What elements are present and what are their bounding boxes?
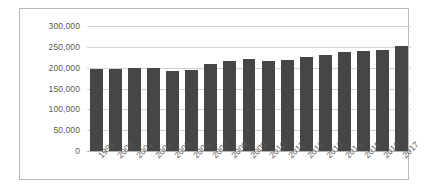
bar-slot bbox=[182, 26, 201, 151]
y-axis-tick-label: 200,000 bbox=[22, 63, 80, 73]
bar-slot bbox=[278, 26, 297, 151]
bar-slot bbox=[239, 26, 258, 151]
x-axis-tick-label-2007: 2007 bbox=[210, 153, 217, 160]
bar-slot bbox=[220, 26, 239, 151]
bar-slot bbox=[125, 26, 144, 151]
y-axis-tick-label: 250,000 bbox=[22, 42, 80, 52]
x-axis-tick-label-2010: 2010 bbox=[267, 153, 274, 160]
bar-2005[interactable] bbox=[166, 71, 179, 151]
x-axis-labels: 1999200020012004200520062007200820092010… bbox=[87, 153, 411, 193]
bar-2006[interactable] bbox=[185, 70, 198, 151]
x-axis-tick-label-2008: 2008 bbox=[229, 153, 236, 160]
bar-2015[interactable] bbox=[357, 51, 370, 151]
bar-slot bbox=[354, 26, 373, 151]
x-axis-tick-label-1999: 1999 bbox=[96, 153, 103, 160]
bar-2004[interactable] bbox=[147, 68, 160, 151]
x-axis-tick-label-2000: 2000 bbox=[115, 153, 122, 160]
y-axis-tick-label: 0 bbox=[22, 146, 80, 156]
y-axis-tick-label: 150,000 bbox=[22, 84, 80, 94]
y-axis-labels: 300,000250,000200,000150,000100,00050,00… bbox=[20, 26, 83, 151]
bar-slot bbox=[259, 26, 278, 151]
bar-slot bbox=[201, 26, 220, 151]
x-axis-tick-label-2004: 2004 bbox=[153, 153, 160, 160]
x-axis-tick-label-2005: 2005 bbox=[172, 153, 179, 160]
bar-2008[interactable] bbox=[223, 61, 236, 151]
bar-2009[interactable] bbox=[243, 59, 256, 151]
bar-2011[interactable] bbox=[281, 60, 294, 151]
bar-slot bbox=[106, 26, 125, 151]
bar-slot bbox=[373, 26, 392, 151]
bar-slot bbox=[297, 26, 316, 151]
x-axis-tick-label-2011: 2011 bbox=[286, 153, 293, 160]
bar-2000[interactable] bbox=[109, 69, 122, 151]
y-axis-tick-label: 100,000 bbox=[22, 104, 80, 114]
bar-2007[interactable] bbox=[204, 64, 217, 152]
bar-slot bbox=[144, 26, 163, 151]
bar-1999[interactable] bbox=[90, 69, 103, 151]
bar-2017[interactable] bbox=[395, 46, 408, 151]
bar-2016[interactable] bbox=[376, 50, 389, 151]
bar-2013[interactable] bbox=[319, 55, 332, 151]
x-axis-tick-label-2013: 2013 bbox=[324, 153, 331, 160]
x-axis-tick-label-2016: 2016 bbox=[381, 153, 388, 160]
bar-slot bbox=[392, 26, 411, 151]
x-axis-tick-label-2009: 2009 bbox=[248, 153, 255, 160]
bar-2010[interactable] bbox=[262, 61, 275, 151]
bar-2012[interactable] bbox=[300, 57, 313, 151]
y-axis-tick-label: 300,000 bbox=[22, 21, 80, 31]
bar-slot bbox=[316, 26, 335, 151]
x-axis-tick-label-2001: 2001 bbox=[134, 153, 141, 160]
x-axis-tick-label-2017: 2017 bbox=[400, 153, 407, 160]
bar-2001[interactable] bbox=[128, 68, 141, 151]
bar-slot bbox=[87, 26, 106, 151]
chart-frame: 300,000250,000200,000150,000100,00050,00… bbox=[19, 8, 409, 180]
plot-area bbox=[87, 26, 411, 151]
y-axis-tick-label: 50,000 bbox=[22, 125, 80, 135]
x-axis-tick-label-2014: 2014 bbox=[343, 153, 350, 160]
x-axis-tick-label-2006: 2006 bbox=[191, 153, 198, 160]
x-axis-tick-label-2015: 2015 bbox=[362, 153, 369, 160]
bar-slot bbox=[163, 26, 182, 151]
x-axis-tick-label-2012: 2012 bbox=[305, 153, 312, 160]
bar-2014[interactable] bbox=[338, 52, 351, 151]
bar-series bbox=[87, 26, 411, 151]
bar-slot bbox=[335, 26, 354, 151]
